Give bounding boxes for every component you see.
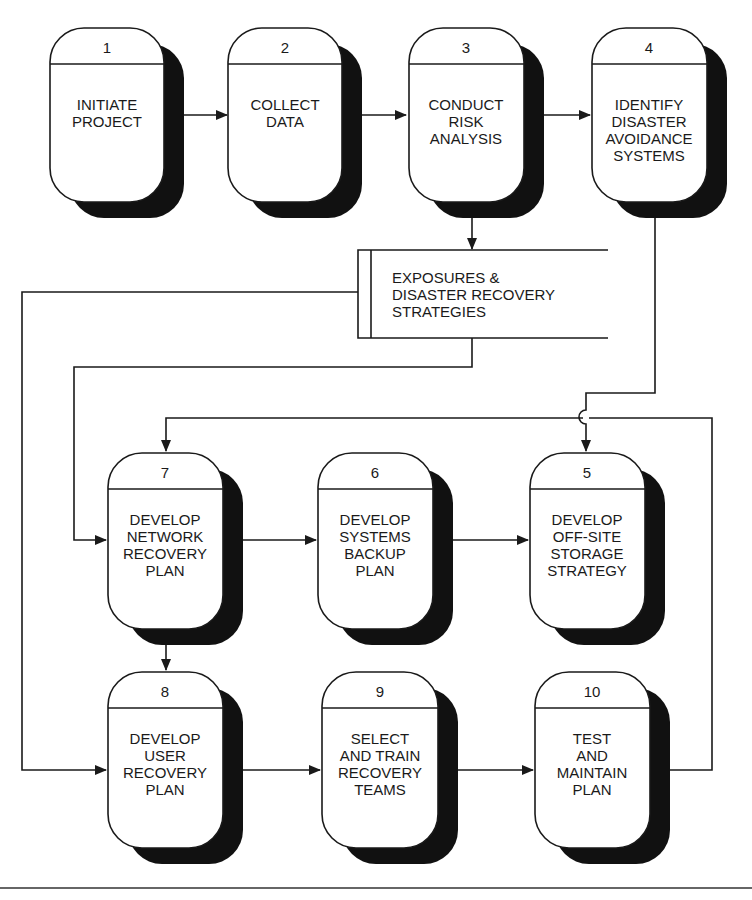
node-label-line: BACKUP	[344, 545, 406, 562]
process-node-5[interactable]: 5 DEVELOP OFF-SITE STORAGE STRATEGY	[530, 453, 665, 645]
node-number: 1	[103, 39, 111, 56]
node-label-line: DEVELOP	[552, 511, 623, 528]
node-label-line: SYSTEMS	[339, 528, 411, 545]
data-store-exposures[interactable]: EXPOSURES & DISASTER RECOVERY STRATEGIES	[358, 250, 608, 338]
node-label-line: PLAN	[572, 781, 611, 798]
node-label-line: RISK	[448, 113, 483, 130]
node-number: 9	[376, 683, 384, 700]
node-number: 7	[161, 464, 169, 481]
node-label-line: PLAN	[355, 562, 394, 579]
store-label-line-3: STRATEGIES	[392, 303, 486, 320]
process-node-4[interactable]: 4 IDENTIFY DISASTER AVOIDANCE SYSTEMS	[592, 28, 727, 218]
store-label-line-1: EXPOSURES &	[392, 269, 500, 286]
node-number: 8	[161, 683, 169, 700]
node-label-line: PLAN	[145, 781, 184, 798]
node-label-line: DEVELOP	[340, 511, 411, 528]
node-number: 3	[462, 39, 470, 56]
node-number: 6	[371, 464, 379, 481]
node-label-line: RECOVERY	[123, 545, 207, 562]
node-label-line: AND	[576, 747, 608, 764]
node-number: 10	[584, 683, 601, 700]
process-node-1[interactable]: 1 INITIATE PROJECT	[50, 28, 184, 218]
node-label-line: DEVELOP	[130, 730, 201, 747]
node-label-line: TEAMS	[354, 781, 406, 798]
node-label-line: STORAGE	[550, 545, 623, 562]
disaster-recovery-flowchart: EXPOSURES & DISASTER RECOVERY STRATEGIES…	[0, 0, 752, 900]
node-label-line: INITIATE	[77, 96, 138, 113]
node-label-line: CONDUCT	[429, 96, 504, 113]
node-number: 2	[281, 39, 289, 56]
node-label-line: MAINTAIN	[557, 764, 628, 781]
process-node-7[interactable]: 7 DEVELOP NETWORK RECOVERY PLAN	[108, 453, 243, 645]
process-node-2[interactable]: 2 COLLECT DATA	[228, 28, 362, 218]
node-label-line: AVOIDANCE	[605, 130, 692, 147]
process-node-6[interactable]: 6 DEVELOP SYSTEMS BACKUP PLAN	[318, 453, 453, 645]
process-node-9[interactable]: 9 SELECT AND TRAIN RECOVERY TEAMS	[322, 672, 458, 864]
node-label-line: NETWORK	[127, 528, 204, 545]
node-label-line: STRATEGY	[547, 562, 627, 579]
node-label-line: DEVELOP	[130, 511, 201, 528]
node-label-line: PLAN	[145, 562, 184, 579]
node-number: 4	[645, 39, 653, 56]
node-label-line: RECOVERY	[338, 764, 422, 781]
node-label-line: AND TRAIN	[340, 747, 421, 764]
node-label-line: COLLECT	[250, 96, 319, 113]
process-node-8[interactable]: 8 DEVELOP USER RECOVERY PLAN	[108, 672, 243, 864]
node-label-line: PROJECT	[72, 113, 142, 130]
node-label-line: SELECT	[351, 730, 409, 747]
node-label-line: ANALYSIS	[430, 130, 502, 147]
node-label-line: SYSTEMS	[613, 147, 685, 164]
process-node-3[interactable]: 3 CONDUCT RISK ANALYSIS	[409, 28, 544, 218]
node-number: 5	[583, 464, 591, 481]
node-label-line: RECOVERY	[123, 764, 207, 781]
store-label-line-2: DISASTER RECOVERY	[392, 286, 555, 303]
node-label-line: OFF-SITE	[553, 528, 621, 545]
node-label-line: TEST	[573, 730, 611, 747]
process-node-10[interactable]: 10 TEST AND MAINTAIN PLAN	[535, 672, 670, 864]
node-label-line: DATA	[266, 113, 304, 130]
node-label-line: USER	[144, 747, 186, 764]
node-label-line: IDENTIFY	[615, 96, 683, 113]
node-label-line: DISASTER	[611, 113, 686, 130]
